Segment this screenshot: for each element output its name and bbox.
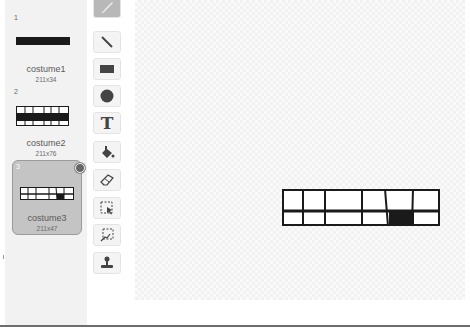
text-icon: T <box>101 113 114 133</box>
eraser-icon <box>99 172 115 188</box>
tool-reshape[interactable] <box>93 224 121 246</box>
costume-number: 1 <box>14 14 18 21</box>
tool-eraser[interactable] <box>93 169 121 191</box>
costume-number: 2 <box>14 88 18 95</box>
costume-number: 3 <box>16 163 20 170</box>
line-icon <box>99 34 115 50</box>
costume-size: 211x76 <box>5 150 87 157</box>
tool-fill[interactable] <box>93 141 121 163</box>
tool-stamp[interactable] <box>93 252 121 274</box>
costume-item-2[interactable]: 2 costume2 211x76 <box>5 88 87 158</box>
costume-size: 211x34 <box>5 76 87 83</box>
tool-line[interactable] <box>93 31 121 53</box>
costume-list: 1 costume1 211x34 2 costume2 211x76 3 <box>5 0 87 325</box>
tool-ellipse[interactable] <box>93 85 121 107</box>
bottom-divider <box>0 325 470 336</box>
tool-text[interactable]: T <box>93 112 121 134</box>
resize-mark <box>3 255 4 259</box>
select-icon <box>99 200 115 216</box>
costume-thumbnail <box>16 106 69 126</box>
rectangle-icon <box>99 61 115 77</box>
costume-thumbnail <box>20 187 74 200</box>
select-and-duplicate-icon <box>99 227 115 243</box>
tool-select[interactable] <box>93 197 121 219</box>
brush-icon <box>99 0 115 15</box>
ellipse-icon <box>99 88 115 104</box>
tool-rectangle[interactable] <box>93 58 121 80</box>
costume-drawing <box>282 189 440 226</box>
costume-item-3[interactable]: 3 costume3 211x47 <box>12 160 82 235</box>
costume-item-1[interactable]: 1 costume1 211x34 <box>5 14 87 84</box>
costume-name: costume3 <box>13 213 81 223</box>
paint-canvas[interactable] <box>135 0 465 300</box>
costume-thumbnail <box>16 37 70 45</box>
costume-size: 211x47 <box>13 225 81 232</box>
costume-name: costume1 <box>5 64 87 74</box>
costume-name: costume2 <box>5 138 87 148</box>
delete-costume-button[interactable] <box>75 163 85 173</box>
tool-brush[interactable] <box>93 0 121 18</box>
paint-bucket-icon <box>99 144 115 160</box>
stamp-icon <box>99 255 115 271</box>
